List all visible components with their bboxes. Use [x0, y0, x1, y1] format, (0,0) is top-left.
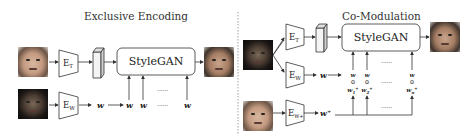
right-latent-wplus: w⁺: [320, 108, 331, 118]
col2-w: w: [364, 71, 370, 78]
right-feature-block: [316, 28, 324, 52]
col2-operator: ⊙: [364, 78, 369, 85]
left-style-w-2: w: [140, 100, 148, 110]
col1-w: w: [350, 71, 356, 78]
right-ellipsis-bottom: ......: [381, 102, 393, 109]
right-ellipsis-mid: ......: [381, 77, 393, 84]
coln-operator: ⊙: [409, 78, 414, 85]
left-ellipsis-bottom: ......: [157, 100, 169, 107]
col1-operator: ⊙: [350, 78, 355, 85]
right-ellipsis-top: ......: [381, 57, 393, 64]
coln-w: w: [409, 71, 415, 78]
left-ellipsis-top: ......: [157, 85, 169, 92]
left-feature-block: [93, 52, 101, 78]
diagram-canvas: ET EW StyleGAN w w w w ...... ...... ET …: [0, 0, 474, 140]
col1-wplus: w1+: [347, 86, 358, 95]
right-stylegan-label: StyleGAN: [354, 31, 409, 44]
left-latent-w: w: [97, 100, 105, 110]
coln-wplus: wn+: [406, 86, 417, 95]
left-style-w-n: w: [184, 100, 192, 110]
left-style-w-1: w: [126, 100, 134, 110]
left-stylegan-label: StyleGAN: [129, 55, 184, 68]
right-latent-w: w: [320, 70, 328, 80]
col2-wplus: w2+: [361, 86, 372, 95]
